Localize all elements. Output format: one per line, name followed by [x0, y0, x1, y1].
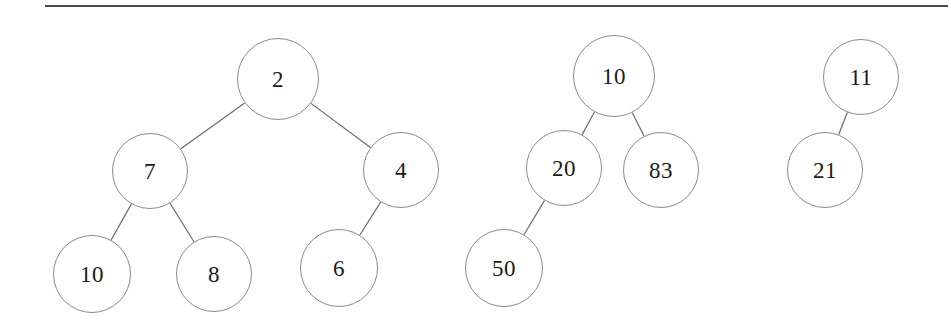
tree-node-11: 11 — [823, 39, 899, 115]
tree-node-6: 6 — [300, 229, 378, 307]
tree-edge-10-to-83 — [632, 113, 644, 136]
tree-edge-7-to-8 — [170, 203, 194, 241]
tree-node-83: 83 — [623, 132, 699, 208]
tree-node-21: 21 — [787, 132, 863, 208]
tree-edge-2-to-4 — [311, 103, 370, 147]
tree-node-8: 8 — [176, 236, 252, 312]
tree-node-10: 10 — [573, 35, 655, 117]
tree-edge-10-to-20 — [582, 112, 594, 135]
tree-node-7: 7 — [112, 133, 188, 209]
tree-node-10: 10 — [53, 235, 131, 313]
tree-edge-7-to-10 — [111, 204, 131, 240]
tree-edge-4-to-6 — [360, 202, 381, 235]
tree-node-50: 50 — [465, 229, 543, 307]
tree-edge-11-to-21 — [839, 112, 848, 134]
tree-node-4: 4 — [363, 132, 439, 208]
tree-node-2: 2 — [237, 38, 319, 120]
tree-node-20: 20 — [526, 130, 602, 206]
diagram-page: 2741086102083501121 — [0, 0, 948, 336]
tree-edge-20-to-50 — [524, 201, 544, 235]
tree-edge-2-to-7 — [181, 103, 245, 149]
